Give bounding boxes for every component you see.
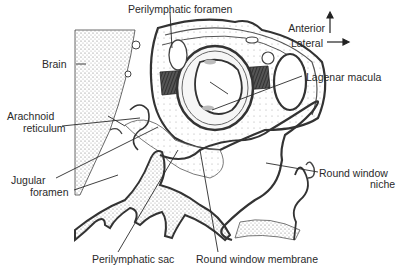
label-anterior: Anterior [283,22,325,34]
lagena-inner [195,60,242,114]
label-lateral: Lateral [283,37,323,49]
anatomical-illustration [0,0,398,271]
label-perilymphatic-sac: Perilymphatic sac [92,253,174,265]
lateral-cavity [274,54,306,110]
label-lagenar-macula: Lagenar macula [306,71,381,83]
label-jugular-foramen-2: foramen [30,186,69,198]
label-perilymphatic-foramen: Perilymphatic foramen [128,3,232,15]
label-arachnoid-reticulum-1: Arachnoid [7,110,54,122]
brain-region [75,30,135,195]
leader-round-window-niche [266,163,318,172]
orientation-arrows [327,12,349,45]
label-brain: Brain [42,58,67,70]
label-arachnoid-reticulum-2: reticulum [23,122,66,134]
label-round-window-niche-2: niche [370,178,395,190]
label-round-window-membrane: Round window membrane [196,253,318,265]
label-jugular-foramen-1: Jugular [11,174,45,186]
